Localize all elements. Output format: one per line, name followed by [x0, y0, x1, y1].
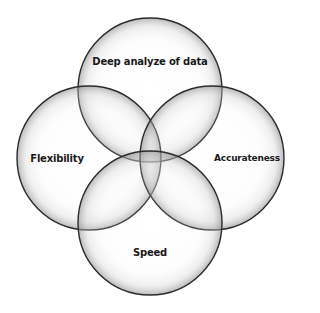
- label-speed: Speed: [133, 247, 167, 258]
- label-flexibility: Flexibility: [30, 153, 83, 164]
- label-accurateness: Accurateness: [214, 153, 280, 163]
- label-deep-analyze-of-data: Deep analyze of data: [92, 56, 207, 67]
- circle-bottom: [78, 151, 222, 295]
